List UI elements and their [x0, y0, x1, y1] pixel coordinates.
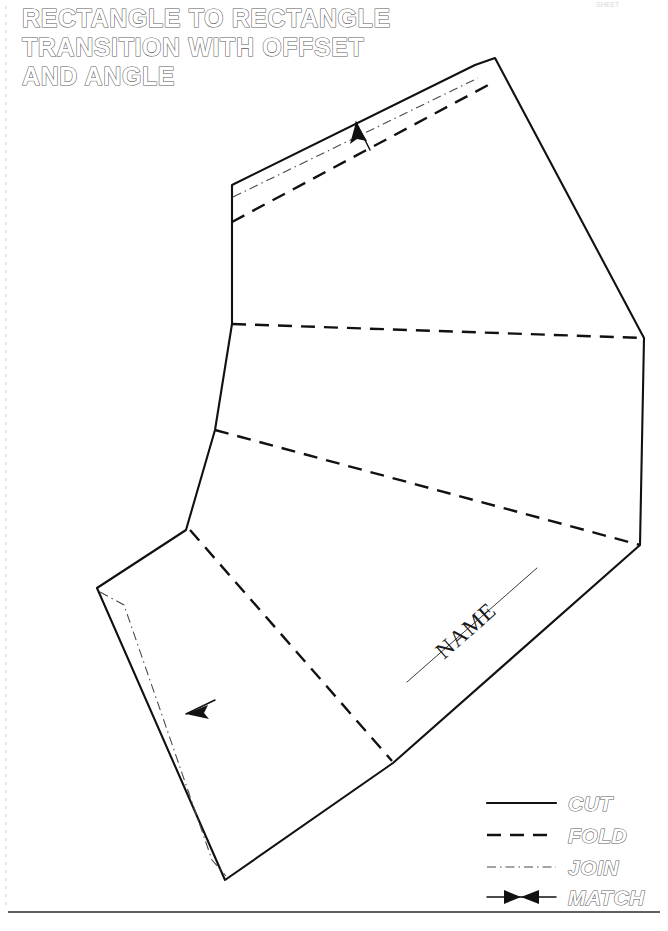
title-line-2: TRANSITION WITH OFFSET — [22, 33, 364, 61]
legend-label-match: MATCH — [568, 886, 645, 909]
legend-label-join: JOIN — [568, 856, 619, 879]
title-line-3: AND ANGLE — [22, 62, 175, 90]
transition-development-drawing: RECTANGLE TO RECTANGLE TRANSITION WITH O… — [0, 0, 668, 931]
legend-label-fold: FOLD — [568, 824, 627, 847]
title-line-1: RECTANGLE TO RECTANGLE — [22, 4, 391, 32]
legend-label-cut: CUT — [568, 792, 614, 815]
drawing-sheet: RECTANGLE TO RECTANGLE TRANSITION WITH O… — [0, 0, 668, 931]
corner-note: SHEET — [596, 1, 620, 8]
